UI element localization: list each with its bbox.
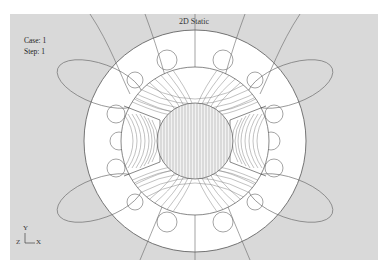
triad-y-label: Y (23, 224, 28, 232)
graphics-viewport[interactable]: 2D Static Case: 1 Step: 1 Y X Z (10, 14, 378, 260)
field-line-plot (10, 14, 378, 260)
triad-x-label: X (36, 238, 41, 246)
step-label: Step: 1 (24, 47, 45, 56)
shaft-circle (157, 103, 233, 179)
triad-z-label: Z (16, 238, 20, 246)
axis-triad-icon (16, 226, 46, 248)
axis-triad: Y X Z (16, 226, 46, 250)
case-label: Case: 1 (24, 36, 46, 45)
view-title: 2D Static (10, 17, 378, 26)
